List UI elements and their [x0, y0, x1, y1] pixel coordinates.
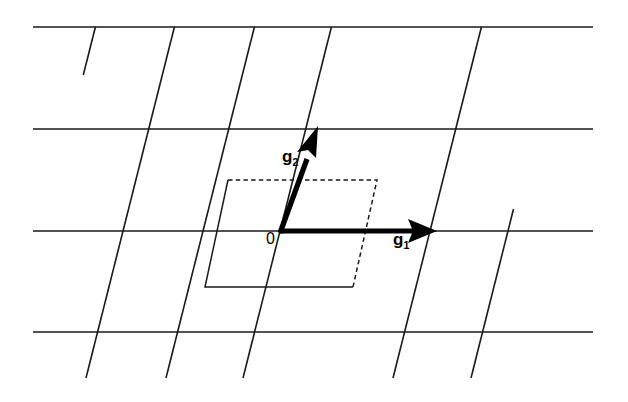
oblique-lattice-line	[393, 27, 481, 378]
oblique-lattice-line	[243, 27, 331, 378]
g2-shaft	[280, 159, 307, 233]
g2-label-subscript: 2	[292, 156, 298, 168]
origin-label: 0	[266, 231, 275, 247]
oblique-lattice-line	[166, 27, 254, 378]
g1-label: g1	[393, 231, 409, 251]
basis-vector-g1	[280, 219, 437, 243]
g1-label-subscript: 1	[403, 239, 409, 251]
origin-label-text: 0	[266, 230, 275, 247]
oblique-lattice-line	[471, 209, 514, 378]
g2-label: g2	[282, 148, 298, 168]
lattice-canvas	[0, 0, 628, 402]
oblique-lattice-line	[86, 27, 174, 378]
g2-label-base: g	[282, 147, 292, 166]
oblique-lattice-line	[83, 27, 95, 75]
lattice-figure: 0 g1 g2	[0, 0, 628, 402]
oblique-lattice-lines	[83, 27, 513, 378]
g1-label-base: g	[393, 230, 403, 249]
